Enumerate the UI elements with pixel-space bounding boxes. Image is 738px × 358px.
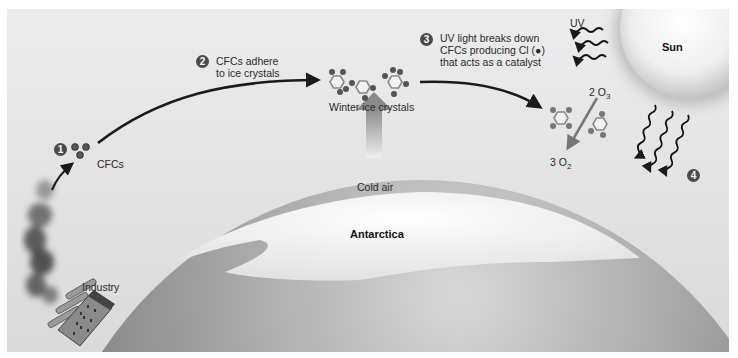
cfc-molecule xyxy=(72,144,90,159)
step-4-badge: 4 xyxy=(687,169,700,182)
product-subscript: 2 xyxy=(567,162,571,171)
step-2-line-2: to ice crystals xyxy=(216,67,280,79)
uv-label: UV xyxy=(570,17,585,29)
reactant-text: 2 O xyxy=(589,86,606,98)
cold-air-label: Cold air xyxy=(357,181,393,193)
uv-rays-downward xyxy=(634,104,690,176)
product-text: 3 O xyxy=(550,156,567,168)
step-3-line-3: that acts as a catalyst xyxy=(440,56,545,68)
uv-rays-incoming xyxy=(571,28,608,59)
diagram-panel: 1 CFCs 2 CFCs adhere to ice crystals Win… xyxy=(7,9,729,352)
arrow-smoke-to-cfcs xyxy=(52,164,72,190)
ice-crystals xyxy=(329,67,409,101)
arrow-cfcs-to-ice xyxy=(98,80,318,143)
step-3-line-2: CFCs producing Cl (●) xyxy=(440,44,545,56)
step-2-label: CFCs adhere to ice crystals xyxy=(216,55,280,79)
step-3-badge: 3 xyxy=(420,33,433,46)
industry-label: Industry xyxy=(82,281,119,293)
step-3-line-1: UV light breaks down xyxy=(440,32,545,44)
winter-ice-crystals-label: Winter ice crystals xyxy=(329,101,414,113)
step-3-label: UV light breaks down CFCs producing Cl (… xyxy=(440,32,545,68)
reactant-subscript: 3 xyxy=(606,92,610,101)
cfcs-label: CFCs xyxy=(97,158,124,170)
antarctica-label: Antarctica xyxy=(350,228,404,240)
step-2-line-1: CFCs adhere xyxy=(216,55,280,67)
globe-graphic xyxy=(40,180,729,352)
step-1-badge: 1 xyxy=(54,143,67,156)
sun-graphic xyxy=(615,9,729,105)
conversion-arrow xyxy=(568,98,597,148)
sun-label: Sun xyxy=(662,41,683,53)
product-label: 3 O2 xyxy=(550,156,571,173)
step-2-badge: 2 xyxy=(196,55,209,68)
smoke-plume xyxy=(24,180,58,304)
reaction-molecules xyxy=(550,98,607,148)
arrow-ice-to-reaction xyxy=(420,82,540,107)
reactant-label: 2 O3 xyxy=(589,86,610,103)
